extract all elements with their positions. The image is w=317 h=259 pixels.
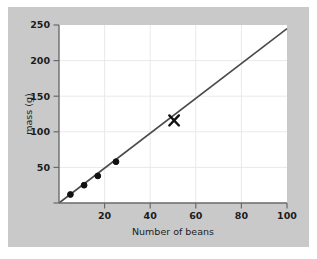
data-point: [68, 192, 74, 198]
x-axis-ticks: [105, 203, 287, 209]
y-tick-label: 50: [37, 162, 51, 173]
x-axis-title: Number of beans: [132, 226, 214, 237]
y-tick-label: 250: [30, 19, 50, 30]
data-point: [113, 159, 119, 165]
y-axis-title: mass (g): [23, 93, 34, 134]
x-tick-label: 80: [235, 210, 249, 221]
data-point: [95, 173, 101, 179]
chart-canvas: 50 100 150 200 250 20 40 60 80 100 Numbe…: [8, 7, 309, 247]
bean-mass-chart: 50 100 150 200 250 20 40 60 80 100 Numbe…: [8, 7, 309, 247]
y-tick-label: 200: [30, 55, 50, 66]
x-tick-label: 20: [98, 210, 112, 221]
x-tick-label: 60: [189, 210, 203, 221]
y-axis-ticks: [54, 25, 60, 203]
x-tick-label: 40: [144, 210, 158, 221]
data-point: [81, 182, 87, 188]
figure-panel: 50 100 150 200 250 20 40 60 80 100 Numbe…: [8, 7, 309, 247]
x-tick-label: 100: [277, 210, 297, 221]
